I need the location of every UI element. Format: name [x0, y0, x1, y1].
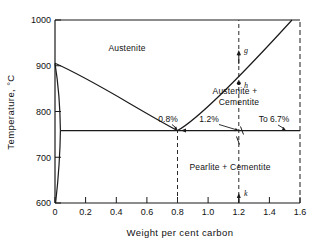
axis-frame — [55, 20, 300, 203]
callout-label-to-6.7pct: To 6.7% — [259, 114, 290, 124]
callout-label-0.8pct: 0.8% — [158, 114, 178, 124]
alpha-ferrite-lower-solvus — [56, 131, 61, 203]
y-axis-title: Temperature, °C — [5, 74, 16, 149]
x-tick-label-0.6: 0.6 — [141, 207, 154, 217]
y-axis-tick-labels: 600 700 800 900 1000 — [31, 15, 51, 208]
x-axis-tick-labels: 0 0.2 0.4 0.6 0.8 1.0 1.2 1.4 1.6 — [52, 207, 306, 217]
point-marker-k: k — [237, 189, 248, 203]
x-tick-label-1.2: 1.2 — [233, 207, 246, 217]
x-tick-label-1.6: 1.6 — [294, 207, 307, 217]
callout-to-6.7-percent: To 6.7% — [259, 114, 290, 131]
marker-k-label: k — [244, 189, 248, 198]
y-tick-label-600: 600 — [36, 198, 51, 208]
callout-label-1.2pct: 1.2% — [199, 114, 219, 124]
marker-h-label: h — [244, 81, 248, 90]
marker-g-label: g — [244, 46, 248, 55]
vertical-guide-lines — [178, 20, 301, 203]
x-tick-label-0.4: 0.4 — [110, 207, 123, 217]
region-label-austenite: Austenite — [108, 43, 145, 53]
x-axis-title: Weight per cent carbon — [127, 227, 234, 238]
eutectoid-left-arrowhead — [181, 129, 186, 133]
y-tick-label-700: 700 — [36, 153, 51, 163]
region-label-austenite-cementite-line2: Cementite — [219, 97, 260, 107]
callout-leader-1.2pct — [219, 125, 236, 130]
marker-g-arrowhead — [237, 50, 241, 55]
x-tick-label-1.0: 1.0 — [202, 207, 215, 217]
marker-h-dot — [237, 81, 241, 85]
callout-0.8-percent: 0.8% — [158, 114, 178, 131]
region-label-pearlite-cementite: Pearlite + Cementite — [189, 162, 270, 172]
y-tick-label-900: 900 — [36, 61, 51, 71]
callout-1.2-percent: 1.2% — [199, 114, 243, 145]
x-tick-label-0: 0 — [52, 207, 57, 217]
y-tick-label-800: 800 — [36, 107, 51, 117]
y-tick-label-1000: 1000 — [31, 15, 51, 25]
x-tick-label-0.8: 0.8 — [171, 207, 184, 217]
x-tick-label-0.2: 0.2 — [79, 207, 92, 217]
phase-diagram-svg: 600 700 800 900 1000 0 0.2 0.4 0.6 0.8 1… — [0, 0, 324, 252]
x-tick-label-1.4: 1.4 — [263, 207, 276, 217]
phase-diagram-figure: 600 700 800 900 1000 0 0.2 0.4 0.6 0.8 1… — [0, 0, 324, 252]
region-label-austenite-cementite-line1: Austenite + — [213, 86, 258, 96]
alpha-ferrite-upper-solvus — [55, 63, 60, 130]
marker-k-arrowhead — [237, 193, 241, 198]
